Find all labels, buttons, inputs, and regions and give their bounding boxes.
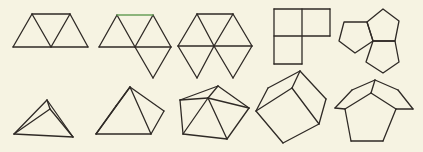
edge	[214, 14, 233, 46]
net-3-pentagons	[339, 9, 399, 73]
net-6-triangles	[178, 14, 252, 78]
edge	[300, 71, 326, 99]
edge	[345, 93, 371, 109]
edge	[233, 14, 252, 46]
net-3-squares	[274, 9, 330, 64]
edge	[371, 93, 396, 109]
edge	[375, 80, 398, 90]
solid-pentagon-corner	[335, 80, 413, 141]
edge	[345, 109, 351, 141]
edge	[178, 14, 197, 46]
pentagon-face	[339, 22, 373, 53]
edge	[50, 109, 73, 137]
edge	[283, 124, 319, 143]
edge	[268, 71, 300, 88]
edge	[13, 14, 32, 47]
edge	[153, 47, 171, 78]
edge	[151, 111, 164, 134]
edge	[51, 14, 70, 47]
edge	[135, 15, 153, 47]
figure-canvas	[0, 0, 423, 152]
edge	[32, 14, 51, 47]
edge	[116, 87, 130, 106]
pentagon-face	[366, 41, 399, 73]
net-4-triangles	[99, 15, 171, 78]
edge	[99, 15, 117, 47]
edge	[208, 98, 227, 139]
edge	[178, 46, 197, 78]
edge	[197, 14, 214, 46]
solid-tetrahedron	[96, 87, 164, 134]
edge	[180, 100, 183, 134]
edge	[335, 90, 352, 108]
solid-6-triangles	[180, 86, 249, 139]
solid-3-triangles	[14, 100, 73, 137]
edge	[256, 111, 283, 143]
edge	[14, 109, 50, 134]
edge	[319, 99, 326, 124]
polyhedra-nets-figure	[0, 0, 423, 152]
edge	[135, 47, 153, 78]
edge	[335, 108, 345, 109]
edge	[214, 46, 233, 78]
edge	[233, 46, 252, 78]
edge	[14, 134, 73, 137]
edge	[352, 80, 375, 90]
edge	[183, 98, 208, 134]
edge	[197, 46, 214, 78]
edge	[96, 106, 116, 134]
edge	[383, 109, 396, 141]
edge	[70, 14, 88, 47]
edge	[153, 15, 171, 47]
net-3-triangles	[13, 14, 88, 47]
solid-cube-corner	[256, 71, 326, 143]
edge	[292, 88, 319, 124]
edge	[117, 15, 135, 47]
edge	[183, 134, 227, 139]
edge	[14, 100, 47, 134]
edge	[398, 90, 413, 109]
edge	[227, 108, 249, 139]
